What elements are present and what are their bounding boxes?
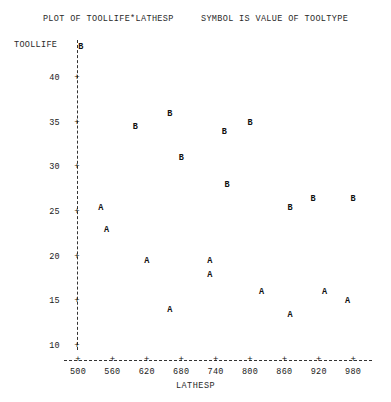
x-tick-label: 620 — [139, 368, 155, 377]
y-tick-label: 25 — [49, 208, 60, 217]
y-tick-mark: + — [74, 342, 79, 351]
data-point-a: A — [207, 270, 212, 279]
data-point-a: A — [104, 226, 109, 235]
y-axis-title: TOOLLIFE — [14, 40, 57, 50]
data-point-a: A — [322, 288, 327, 297]
data-point-a: A — [345, 297, 350, 306]
x-tick-mark: + — [144, 356, 149, 365]
x-tick-mark: + — [316, 356, 321, 365]
x-tick-label: 560 — [104, 368, 120, 377]
data-point-b: B — [179, 154, 184, 163]
x-tick-mark: + — [350, 356, 355, 365]
x-tick-label: 500 — [70, 368, 86, 377]
x-tick-label: 860 — [276, 368, 292, 377]
y-tick-label: 40 — [49, 74, 60, 83]
y-tick-label: 20 — [49, 252, 60, 261]
data-point-a: A — [288, 310, 293, 319]
x-tick-label: 980 — [345, 368, 361, 377]
data-point-a: A — [144, 257, 149, 266]
y-tick-label: 10 — [49, 342, 60, 351]
x-tick-mark: + — [247, 356, 252, 365]
data-point-b: B — [224, 181, 229, 190]
x-tick-mark: + — [178, 356, 183, 365]
y-tick-label: 30 — [49, 163, 60, 172]
y-tick-mark: + — [74, 74, 79, 83]
x-tick-label: 740 — [207, 368, 223, 377]
x-tick-mark: + — [282, 356, 287, 365]
data-point-b: B — [78, 42, 83, 51]
x-tick-label: 800 — [242, 368, 258, 377]
data-point-b: B — [167, 109, 172, 118]
data-point-a: A — [167, 306, 172, 315]
data-point-b: B — [288, 203, 293, 212]
x-tick-mark: + — [75, 356, 80, 365]
data-point-a: A — [259, 288, 264, 297]
y-tick-label: 15 — [49, 297, 60, 306]
y-tick-mark: + — [74, 163, 79, 172]
data-point-b: B — [247, 118, 252, 127]
x-tick-mark: + — [213, 356, 218, 365]
data-point-b: B — [310, 194, 315, 203]
plot-title: PLOT OF TOOLLIFE*LATHESP SYMBOL IS VALUE… — [0, 14, 391, 24]
data-point-b: B — [133, 123, 138, 132]
x-tick-label: 920 — [311, 368, 327, 377]
data-point-b: B — [351, 194, 356, 203]
y-tick-mark: + — [74, 118, 79, 127]
data-point-a: A — [98, 203, 103, 212]
x-tick-label: 680 — [173, 368, 189, 377]
y-tick-mark: + — [74, 252, 79, 261]
y-tick-label: 35 — [49, 118, 60, 127]
y-tick-mark: + — [74, 297, 79, 306]
data-point-b: B — [222, 127, 227, 136]
x-tick-mark: + — [110, 356, 115, 365]
x-axis-title: LATHESP — [0, 381, 391, 391]
data-point-a: A — [207, 257, 212, 266]
scatter-plot-canvas: PLOT OF TOOLLIFE*LATHESP SYMBOL IS VALUE… — [0, 0, 391, 402]
y-tick-mark: + — [74, 208, 79, 217]
